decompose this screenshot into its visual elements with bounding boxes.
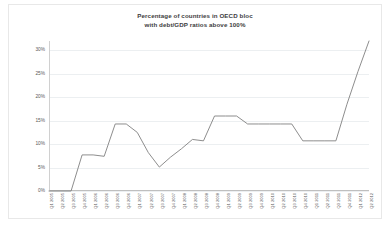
x-axis-tick-label: Q4 2007 — [172, 193, 176, 209]
x-axis-tick-label: Q1 2008 — [183, 193, 187, 209]
x-axis-tick-label: Q2 2011 — [326, 193, 330, 208]
x-axis-tick-label: Q4 2005 — [83, 193, 87, 209]
x-axis-tick-label: Q2 2008 — [194, 193, 198, 209]
plot-area: 30%25%20%15%10%5%0% — [49, 41, 369, 191]
x-axis-tick-labels: Q1 2005Q2 2005Q3 2005Q4 2005Q1 2006Q2 20… — [49, 193, 369, 226]
x-axis-tick-label: Q2 2009 — [238, 193, 242, 209]
x-axis-tick-label: Q3 2009 — [249, 193, 253, 209]
x-axis-tick-label: Q1 2010 — [271, 193, 275, 209]
x-axis-tick-label: Q3 2010 — [293, 193, 297, 209]
x-axis-tick-label: Q3 2007 — [161, 193, 165, 209]
y-axis-tick-label: 30% — [35, 48, 45, 53]
x-axis-tick-label: Q2 2005 — [61, 193, 65, 209]
y-axis-tick-label: 0% — [38, 189, 45, 194]
data-series-line — [49, 31, 369, 191]
x-axis-tick-label: Q4 2008 — [216, 193, 220, 209]
x-axis-tick-label: Q1 2011 — [315, 193, 319, 208]
chart-title-line-2: with debt/GDP ratios above 100% — [9, 20, 381, 29]
chart-title-line-1: Percentage of countries in OECD bloc — [9, 11, 381, 20]
x-axis-tick-label: Q1 2009 — [227, 193, 231, 209]
x-axis-tick-label: Q3 2006 — [116, 193, 120, 209]
chart-title: Percentage of countries in OECD bloc wit… — [9, 11, 381, 29]
chart-container: Percentage of countries in OECD bloc wit… — [8, 4, 382, 219]
y-axis-tick-label: 20% — [35, 95, 45, 100]
x-axis-tick-label: Q1 2007 — [138, 193, 142, 209]
x-axis-tick-label: Q2 2012 — [370, 193, 374, 209]
x-axis-tick-label: Q4 2006 — [127, 193, 131, 209]
x-axis-tick-label: Q1 2005 — [50, 193, 54, 209]
y-axis-tick-label: 10% — [35, 142, 45, 147]
x-axis-tick-label: Q4 2009 — [260, 193, 264, 209]
y-axis-tick-label: 25% — [35, 71, 45, 76]
x-axis-tick-label: Q2 2010 — [282, 193, 286, 209]
x-axis-tick-label: Q4 2011 — [348, 193, 352, 208]
x-axis-tick-label: Q1 2012 — [359, 193, 363, 209]
x-axis-tick-label: Q3 2005 — [72, 193, 76, 209]
x-axis-tick-label: Q1 2006 — [94, 193, 98, 209]
x-axis-tick-label: Q3 2008 — [205, 193, 209, 209]
y-axis-tick-label: 5% — [38, 165, 45, 170]
x-axis-tick-label: Q2 2006 — [105, 193, 109, 209]
y-axis-tick-label: 15% — [35, 118, 45, 123]
x-axis-tick-label: Q4 2010 — [304, 193, 308, 209]
x-axis-tick-label: Q3 2011 — [337, 193, 341, 208]
x-axis-tick-label: Q2 2007 — [150, 193, 154, 209]
